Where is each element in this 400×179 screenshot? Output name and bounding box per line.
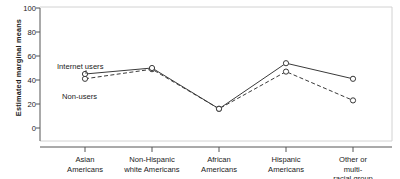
x-tick-label-other-multiracial: Other or multi- racial group (330, 155, 377, 179)
data-point-marker (350, 98, 355, 103)
x-tick-label-hispanic-americans: Hispanic Americans (268, 155, 304, 174)
plot-frame (40, 7, 392, 141)
x-tick-label-african-americans: African Americans (201, 155, 237, 174)
data-point-marker (283, 61, 288, 66)
data-point-marker (216, 106, 221, 111)
chart-container: Estimated marginal means 100 80 60 40 20… (0, 0, 400, 179)
series-line-non-users (85, 69, 353, 109)
data-point-marker (283, 69, 288, 74)
x-tick-label-non-hispanic-white: Non-Hispanic white Americans (124, 155, 179, 174)
annotation-non-users: Non-users (62, 92, 97, 101)
series-line-internet-users (85, 63, 353, 109)
data-point-marker (82, 71, 87, 76)
series-markers-internet-users (82, 61, 355, 112)
data-point-marker (350, 76, 355, 81)
annotation-internet-users: Internet users (57, 62, 103, 71)
x-tick-label-asian-americans: Asian Americans (67, 155, 103, 174)
plot-area (0, 0, 400, 179)
data-point-marker (149, 65, 154, 70)
